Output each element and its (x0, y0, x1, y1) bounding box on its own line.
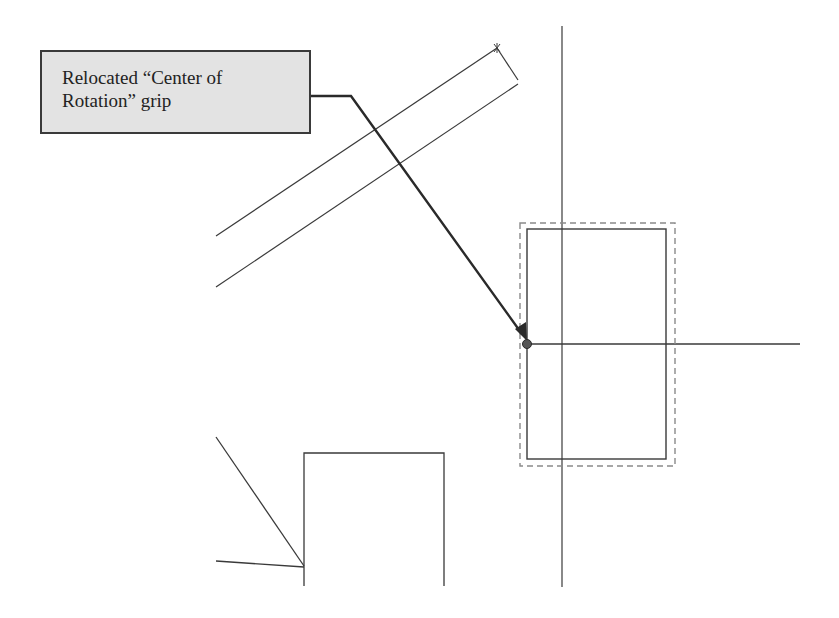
callout-box: Relocated “Center of Rotation” grip (40, 50, 311, 134)
leader-line (311, 96, 522, 334)
lower-geometry (216, 437, 444, 586)
center-of-rotation-grip-icon[interactable] (523, 340, 532, 349)
endpoint-marker-icon (494, 43, 500, 53)
callout-text-line1: Relocated “Center of (62, 66, 309, 89)
callout-text-line2: Rotation” grip (62, 89, 309, 112)
